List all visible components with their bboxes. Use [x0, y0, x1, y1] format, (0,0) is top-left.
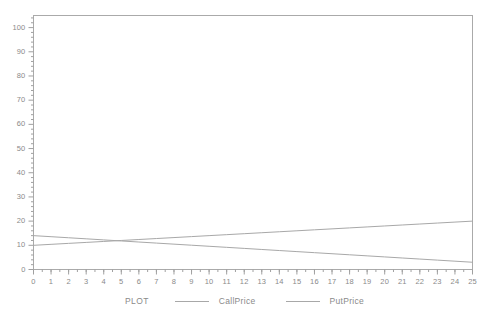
x-tick-label: 19 — [363, 278, 372, 286]
x-tick-label: 25 — [468, 278, 477, 286]
y-tick-label: 90 — [0, 48, 26, 56]
x-tick-label: 6 — [137, 278, 141, 286]
y-tick-label: 40 — [0, 169, 26, 177]
y-tick-label: 10 — [0, 241, 26, 249]
y-tick-label: 100 — [0, 24, 26, 32]
chart-container: 0102030405060708090100 01234567891011121… — [0, 0, 489, 326]
legend-label-callprice: CallPrice — [219, 296, 256, 306]
legend-label-putprice: PutPrice — [330, 296, 365, 306]
x-tick-label: 7 — [154, 278, 158, 286]
series-line-callprice — [34, 221, 473, 245]
y-tick-label: 70 — [0, 96, 26, 104]
x-tick-label: 5 — [119, 278, 123, 286]
x-tick-label: 20 — [380, 278, 389, 286]
x-tick-label: 18 — [345, 278, 354, 286]
x-tick-label: 12 — [240, 278, 249, 286]
x-tick-label: 17 — [328, 278, 337, 286]
x-tick-label: 9 — [189, 278, 193, 286]
legend-entry-putprice[interactable]: PutPrice — [286, 296, 365, 306]
x-tick-label: 4 — [102, 278, 106, 286]
data-series-lines — [34, 221, 473, 262]
y-tick-label: 30 — [0, 193, 26, 201]
x-tick-label: 16 — [310, 278, 319, 286]
x-tick-label: 23 — [433, 278, 442, 286]
x-tick-label: 21 — [398, 278, 407, 286]
x-axis-ticks — [34, 270, 473, 275]
legend-title: PLOT — [125, 296, 149, 306]
x-tick-label: 15 — [293, 278, 302, 286]
legend-entry-callprice[interactable]: CallPrice — [175, 296, 256, 306]
legend-swatch-callprice — [175, 301, 209, 302]
series-line-putprice — [34, 236, 473, 263]
x-tick-label: 2 — [66, 278, 70, 286]
x-tick-label: 11 — [223, 278, 231, 286]
x-tick-label: 22 — [415, 278, 424, 286]
y-tick-label: 80 — [0, 72, 26, 80]
x-tick-label: 3 — [84, 278, 88, 286]
x-tick-label: 0 — [31, 278, 35, 286]
y-tick-label: 60 — [0, 120, 26, 128]
y-tick-label: 0 — [0, 266, 26, 274]
x-tick-label: 13 — [257, 278, 266, 286]
y-tick-label: 50 — [0, 145, 26, 153]
x-tick-label: 1 — [49, 278, 53, 286]
x-tick-label: 24 — [451, 278, 460, 286]
y-axis-ticks — [29, 18, 34, 270]
axis-frame — [34, 16, 473, 270]
y-tick-label: 20 — [0, 217, 26, 225]
legend-swatch-putprice — [286, 301, 320, 302]
x-tick-label: 8 — [172, 278, 176, 286]
x-tick-label: 10 — [205, 278, 214, 286]
chart-legend: PLOT CallPrice PutPrice — [0, 292, 489, 310]
x-tick-label: 14 — [275, 278, 284, 286]
